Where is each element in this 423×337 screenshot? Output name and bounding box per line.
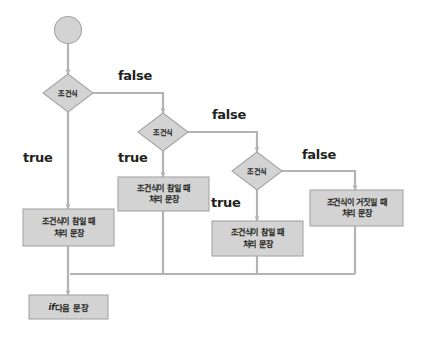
edge-decision1-false bbox=[92, 93, 163, 113]
decision1-node bbox=[43, 74, 93, 112]
connector-edges bbox=[68, 43, 355, 295]
decision3-node bbox=[232, 152, 282, 190]
flowchart-diagram: 조건식 조건식 조건식 조건식이 참일 때 처리 문장 조건식이 참일 때 처리… bbox=[0, 0, 423, 337]
start-node bbox=[55, 17, 82, 44]
end-statement-node bbox=[29, 295, 108, 319]
process-true1-node bbox=[23, 209, 114, 246]
process-true3-node bbox=[212, 221, 303, 256]
decision2-node bbox=[138, 113, 188, 151]
process-true2-node bbox=[118, 177, 209, 211]
flowchart-svg bbox=[0, 0, 423, 337]
edge-decision3-false bbox=[281, 171, 355, 190]
edge-decision2-false bbox=[187, 132, 257, 152]
process-false-node bbox=[310, 190, 403, 226]
